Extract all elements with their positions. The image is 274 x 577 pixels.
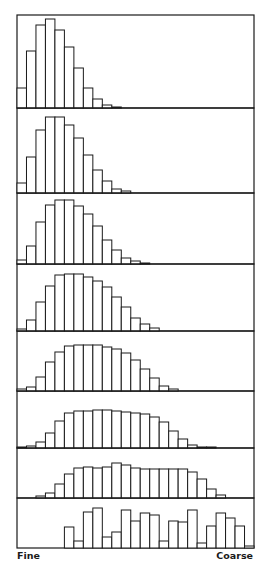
histogram-bar xyxy=(55,117,64,193)
histogram-bar xyxy=(159,469,168,498)
histogram-bar xyxy=(26,246,35,264)
panel-6 xyxy=(17,391,254,448)
histogram-bar xyxy=(112,532,121,548)
histogram-bar xyxy=(112,349,121,391)
histogram-bar xyxy=(64,527,73,548)
panel-2 xyxy=(17,108,254,193)
histogram-bar xyxy=(131,360,140,391)
histogram-bar xyxy=(131,413,140,448)
panel-7 xyxy=(17,448,254,498)
histogram-bar xyxy=(150,515,159,548)
histogram-bar xyxy=(36,442,45,448)
histogram-bar xyxy=(140,469,149,498)
histogram-bar xyxy=(140,369,149,391)
histogram-bar xyxy=(64,474,73,498)
histogram-bar xyxy=(121,353,130,391)
histogram-bar xyxy=(26,320,35,331)
histogram-bar xyxy=(55,421,64,448)
histogram-bar xyxy=(17,88,26,108)
histogram-bar xyxy=(83,345,92,391)
histogram-bar xyxy=(150,378,159,391)
histogram-bar xyxy=(45,433,54,448)
histogram-bar xyxy=(140,513,149,548)
histogram-bar xyxy=(235,526,244,548)
histogram-bar xyxy=(226,518,235,548)
histogram-bar xyxy=(45,362,54,391)
histogram-bar xyxy=(207,526,216,548)
histogram-bar xyxy=(112,189,121,193)
histogram-bar xyxy=(55,484,64,498)
histogram-bar xyxy=(45,205,54,264)
histogram-bar xyxy=(45,117,54,193)
histogram-bar xyxy=(26,51,35,108)
histogram-bar xyxy=(159,422,168,448)
panel-3 xyxy=(17,193,254,264)
histogram-bar xyxy=(83,467,92,498)
histogram-bar xyxy=(83,88,92,108)
histogram-bar xyxy=(83,512,92,548)
histogram-bar xyxy=(93,508,102,548)
histogram-bar xyxy=(102,347,111,391)
histogram-bar xyxy=(74,206,83,264)
histogram-bar xyxy=(17,260,26,264)
histogram-bar xyxy=(74,468,83,498)
histogram-bar xyxy=(93,468,102,498)
histogram-bar xyxy=(64,47,73,108)
histogram-bar xyxy=(150,469,159,498)
histogram-bar xyxy=(121,307,130,331)
histogram-bar xyxy=(207,489,216,498)
histogram-bar xyxy=(169,469,178,498)
histogram-bar xyxy=(74,68,83,108)
histogram-bar xyxy=(93,99,102,108)
histogram-bar xyxy=(55,200,64,264)
histogram-bar xyxy=(93,226,102,264)
histogram-bar xyxy=(178,439,187,448)
histogram-bar xyxy=(121,258,130,264)
histogram-bar xyxy=(102,467,111,498)
panel-8 xyxy=(17,498,254,548)
histogram-bar xyxy=(74,541,83,548)
histogram-bar xyxy=(55,352,64,391)
histogram-bar xyxy=(112,463,121,498)
histogram-bar xyxy=(102,537,111,548)
stacked-histogram-chart xyxy=(0,0,274,577)
histogram-bar xyxy=(64,200,73,264)
x-axis-label-coarse: Coarse xyxy=(216,550,253,561)
histogram-bar xyxy=(45,493,54,498)
histogram-bar xyxy=(83,155,92,193)
histogram-bar xyxy=(45,286,54,331)
histogram-bar xyxy=(216,513,225,548)
histogram-bar xyxy=(178,522,187,548)
histogram-bar xyxy=(102,287,111,331)
histogram-bar xyxy=(121,510,130,548)
histogram-bar xyxy=(197,479,206,498)
histogram-bar xyxy=(140,414,149,448)
histogram-bar xyxy=(131,468,140,498)
panel-5 xyxy=(17,331,254,391)
histogram-bar xyxy=(55,30,64,108)
histogram-bar xyxy=(140,324,149,331)
histogram-bar xyxy=(112,250,121,264)
histogram-bar xyxy=(64,274,73,331)
histogram-bar xyxy=(74,411,83,448)
histogram-bar xyxy=(64,413,73,448)
histogram-bar xyxy=(64,125,73,193)
histogram-bar xyxy=(64,346,73,391)
histogram-bar xyxy=(93,345,102,391)
histogram-bar xyxy=(102,410,111,448)
x-axis-label-fine: Fine xyxy=(17,550,40,561)
histogram-bar xyxy=(169,431,178,448)
histogram-bar xyxy=(169,521,178,548)
histogram-bar xyxy=(36,222,45,264)
histogram-bar xyxy=(26,387,35,391)
histogram-bar xyxy=(93,281,102,331)
histogram-bar xyxy=(188,510,197,548)
histogram-bar xyxy=(121,412,130,448)
histogram-bar xyxy=(112,411,121,448)
histogram-bar xyxy=(102,181,111,193)
histogram-bar xyxy=(131,318,140,331)
histogram-bar xyxy=(159,386,168,391)
panel-1 xyxy=(17,15,254,108)
histogram-bar xyxy=(74,274,83,331)
histogram-bar xyxy=(159,541,168,548)
